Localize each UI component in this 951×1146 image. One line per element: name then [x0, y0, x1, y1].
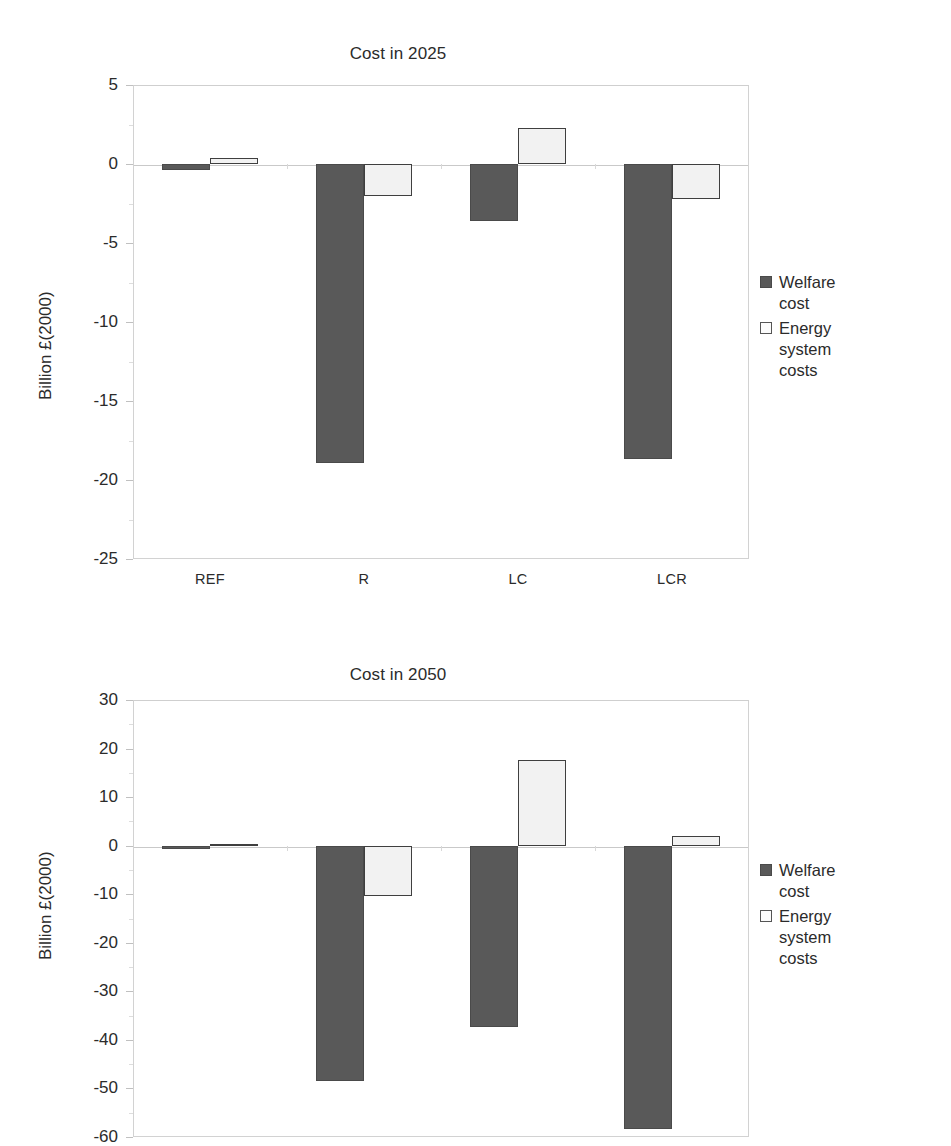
legend-swatch-welfare-icon: [760, 276, 772, 288]
bar-ref-welfare-cost: [162, 846, 210, 849]
y-minor-tick-mark: [129, 773, 133, 774]
chart-cost-2025: Cost in 2025 Billion £(2000) 50-5-10-15-…: [0, 0, 951, 610]
x-tick-mark: [287, 846, 289, 851]
legend-item-welfare-cost: Welfare cost: [760, 860, 836, 902]
y-tick-label: -20: [28, 471, 118, 488]
y-tick-mark: [126, 846, 133, 847]
y-tick-label: -25: [28, 550, 118, 567]
legend-label-energy-system-costs: Energy system costs: [779, 906, 831, 969]
y-tick-mark: [126, 991, 133, 992]
legend-swatch-welfare-icon: [760, 864, 772, 876]
y-tick-mark: [126, 894, 133, 895]
y-minor-tick-mark: [129, 1113, 133, 1114]
x-tick-mark: [441, 846, 443, 851]
bar-r-energy-system-costs: [364, 846, 412, 896]
bar-ref-welfare-cost: [162, 164, 210, 170]
y-tick-mark: [126, 164, 133, 165]
chart-title-2050: Cost in 2050: [248, 665, 548, 685]
legend-item-energy-system-costs: Energy system costs: [760, 906, 831, 969]
x-tick-label-ref: REF: [160, 571, 260, 587]
x-tick-mark: [595, 164, 597, 169]
legend-item-welfare-cost: Welfare cost: [760, 272, 836, 314]
y-tick-mark: [126, 1088, 133, 1089]
y-tick-mark: [126, 480, 133, 481]
y-minor-tick-mark: [129, 919, 133, 920]
bar-lcr-energy-system-costs: [672, 164, 720, 199]
bar-r-welfare-cost: [316, 846, 364, 1081]
bar-lcr-welfare-cost: [624, 846, 672, 1129]
y-tick-label: -10: [28, 313, 118, 330]
bar-ref-energy-system-costs: [210, 844, 258, 846]
y-minor-tick-mark: [129, 1064, 133, 1065]
bar-lc-energy-system-costs: [518, 128, 566, 164]
y-tick-label: 0: [28, 155, 118, 172]
y-tick-label: -5: [28, 234, 118, 251]
y-tick-label: 10: [28, 788, 118, 805]
y-tick-mark: [126, 243, 133, 244]
y-tick-mark: [126, 749, 133, 750]
y-minor-tick-mark: [129, 821, 133, 822]
y-minor-tick-mark: [129, 967, 133, 968]
legend-label-welfare-cost: Welfare cost: [779, 272, 836, 314]
y-tick-label: -20: [28, 934, 118, 951]
y-tick-mark: [126, 1137, 133, 1138]
y-tick-mark: [126, 401, 133, 402]
x-tick-mark: [441, 164, 443, 169]
y-minor-tick-mark: [129, 724, 133, 725]
x-tick-label-r: R: [314, 571, 414, 587]
y-minor-tick-mark: [129, 520, 133, 521]
bar-lc-welfare-cost: [470, 846, 518, 1027]
y-tick-label: -50: [28, 1079, 118, 1096]
x-tick-label-lc: LC: [468, 571, 568, 587]
y-tick-label: -15: [28, 392, 118, 409]
y-tick-label: 30: [28, 691, 118, 708]
x-tick-mark: [287, 164, 289, 169]
y-tick-mark: [126, 85, 133, 86]
y-minor-tick-mark: [129, 283, 133, 284]
legend-label-welfare-cost: Welfare cost: [779, 860, 836, 902]
legend-swatch-energy-icon: [760, 910, 772, 922]
y-minor-tick-mark: [129, 125, 133, 126]
bar-r-energy-system-costs: [364, 164, 412, 196]
y-tick-label: -30: [28, 982, 118, 999]
bar-r-welfare-cost: [316, 164, 364, 463]
bar-lcr-energy-system-costs: [672, 836, 720, 846]
y-minor-tick-mark: [129, 870, 133, 871]
y-tick-mark: [126, 700, 133, 701]
chart-cost-2050: Cost in 2050 Billion £(2000) 3020100-10-…: [0, 610, 951, 1141]
y-tick-label: 20: [28, 740, 118, 757]
y-axis-title-2025: Billion £(2000): [36, 291, 56, 400]
y-tick-label: 5: [28, 76, 118, 93]
y-tick-mark: [126, 797, 133, 798]
y-tick-mark: [126, 943, 133, 944]
bar-lcr-welfare-cost: [624, 164, 672, 459]
y-minor-tick-mark: [129, 204, 133, 205]
y-minor-tick-mark: [129, 362, 133, 363]
y-tick-label: 0: [28, 837, 118, 854]
y-tick-label: -60: [28, 1128, 118, 1145]
y-minor-tick-mark: [129, 441, 133, 442]
bar-lc-energy-system-costs: [518, 760, 566, 845]
x-tick-mark: [595, 846, 597, 851]
bar-ref-energy-system-costs: [210, 158, 258, 164]
legend-item-energy-system-costs: Energy system costs: [760, 318, 831, 381]
y-minor-tick-mark: [129, 1016, 133, 1017]
y-tick-mark: [126, 322, 133, 323]
chart-title-2025: Cost in 2025: [248, 44, 548, 64]
bar-lc-welfare-cost: [470, 164, 518, 221]
y-tick-label: -10: [28, 885, 118, 902]
y-tick-mark: [126, 559, 133, 560]
legend-swatch-energy-icon: [760, 322, 772, 334]
y-tick-label: -40: [28, 1031, 118, 1048]
legend-label-energy-system-costs: Energy system costs: [779, 318, 831, 381]
x-tick-label-lcr: LCR: [622, 571, 722, 587]
y-tick-mark: [126, 1040, 133, 1041]
